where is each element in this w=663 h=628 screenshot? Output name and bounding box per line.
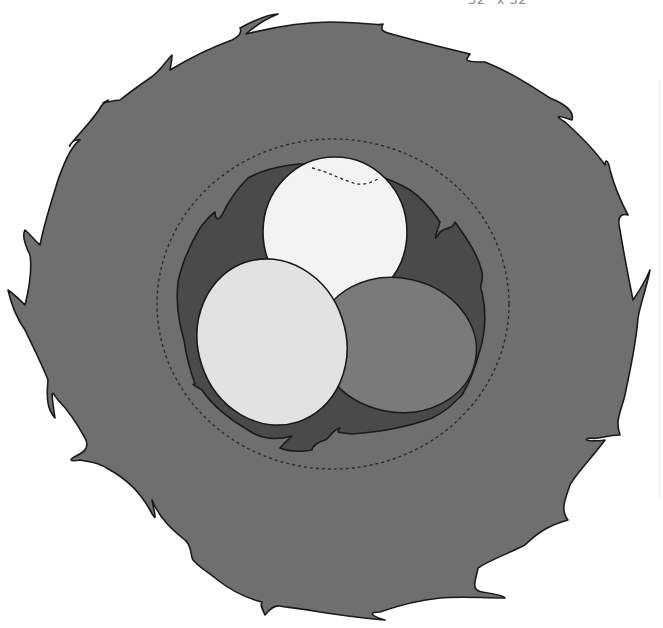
nest-illustration [0,0,663,628]
